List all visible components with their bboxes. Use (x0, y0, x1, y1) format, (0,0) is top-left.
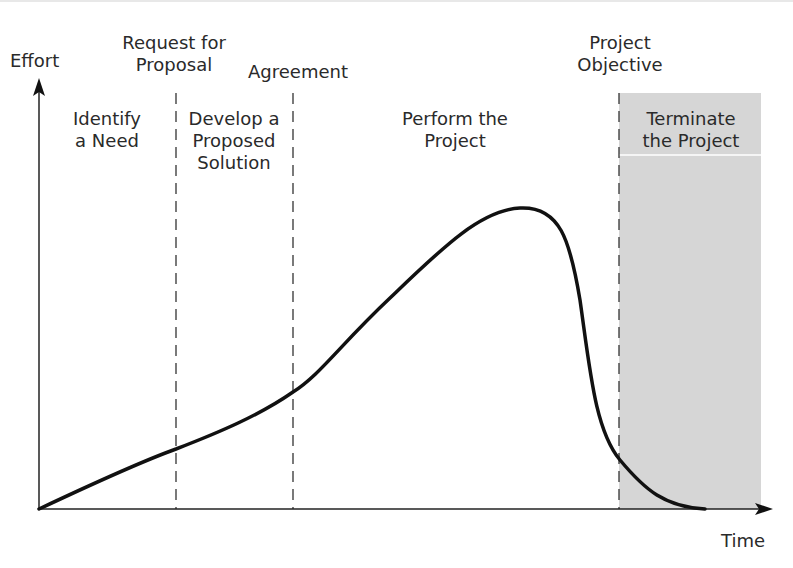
phase-identify-line1: Identify (52, 108, 162, 130)
milestone-rfp: Request for Proposal (108, 32, 240, 76)
phase-terminate-line2: the Project (624, 130, 758, 152)
y-axis-label: Effort (10, 50, 59, 72)
milestone-objective-line1: Project (560, 32, 680, 54)
milestone-agreement: Agreement (238, 61, 358, 83)
milestone-objective: Project Objective (560, 32, 680, 76)
phase-perform: Perform the Project (375, 108, 535, 152)
effort-curve (39, 208, 705, 509)
milestone-objective-line2: Objective (560, 54, 680, 76)
phase-develop: Develop a Proposed Solution (178, 108, 290, 174)
phase-develop-line2: Proposed (178, 130, 290, 152)
phase-terminate-line1: Terminate (624, 108, 758, 130)
phase-develop-line3: Solution (178, 152, 290, 174)
milestone-rfp-line2: Proposal (108, 54, 240, 76)
lifecycle-diagram (0, 0, 793, 568)
phase-identify: Identify a Need (52, 108, 162, 152)
phase-perform-line2: Project (375, 130, 535, 152)
phase-terminate: Terminate the Project (624, 108, 758, 152)
milestone-rfp-line1: Request for (108, 32, 240, 54)
phase-develop-line1: Develop a (178, 108, 290, 130)
phase-perform-line1: Perform the (375, 108, 535, 130)
x-axis-label: Time (721, 530, 765, 552)
milestone-agreement-line1: Agreement (238, 61, 358, 83)
phase-identify-line2: a Need (52, 130, 162, 152)
